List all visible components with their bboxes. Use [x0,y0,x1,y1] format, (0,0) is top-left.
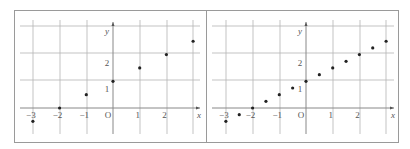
data-point [291,86,294,89]
y-axis-label: y [104,26,109,36]
x-tick-label: −2 [246,110,256,120]
x-tick-label: −2 [53,110,63,120]
x-axis-label: x [196,110,201,120]
x-tick-label: 2 [162,110,167,120]
data-point [358,53,361,56]
x-tick-label: 2 [355,110,360,120]
data-point [371,46,374,49]
data-point [385,40,388,43]
x-tick-label: −3 [219,110,229,120]
x-tick-label: 1 [328,110,333,120]
data-point [318,73,321,76]
x-tick-label: −3 [26,110,36,120]
x-tick-label: −1 [80,110,90,120]
data-point [58,106,61,109]
data-point [85,93,88,96]
data-point [224,120,227,123]
x-axis-label: x [390,110,395,120]
data-point [111,80,114,83]
x-tick-label: O [298,110,305,120]
data-point [331,66,334,69]
x-tick-label: −1 [273,110,283,120]
data-point [165,53,168,56]
panel-2: −3−2−1O1212xy [212,20,395,134]
y-axis-label: y [297,26,302,36]
data-point [344,60,347,63]
plots-canvas: −3−2−1O1212xy−3−2−1O1212xy [0,0,410,149]
y-axis-arrow-icon [305,22,308,26]
data-point [138,66,141,69]
data-point [304,80,307,83]
data-point [192,40,195,43]
x-tick-label: 1 [135,110,140,120]
y-tick-label: 1 [298,84,303,94]
y-tick-label: 2 [298,58,303,68]
y-tick-label: 1 [105,84,110,94]
panel-1: −3−2−1O1212xy [20,20,201,134]
data-point [251,106,254,109]
data-point [238,113,241,116]
data-point [31,120,34,123]
x-tick-label: O [105,110,112,120]
data-point [264,100,267,103]
y-axis-arrow-icon [112,22,115,26]
data-point [278,93,281,96]
y-tick-label: 2 [105,58,110,68]
